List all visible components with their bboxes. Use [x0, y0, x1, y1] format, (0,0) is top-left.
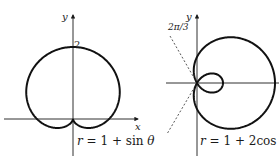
angle-line-2pi-3	[170, 36, 197, 83]
left-tick-2: 2	[74, 39, 80, 50]
left-y-label: y	[61, 11, 68, 22]
eq-theta: θ	[147, 134, 155, 148]
left-plot: y x 2 r = 1 + sin θ	[4, 11, 155, 156]
left-equation: r = 1 + sin θ	[77, 134, 155, 148]
left-x-label: x	[135, 121, 141, 132]
eq-rest: = 1 + sin	[83, 134, 148, 148]
angle-label: 2π/3	[167, 22, 189, 32]
figure: y x 2 r = 1 + sin θ y 2π/3 r = 1 + 2cos …	[0, 0, 279, 160]
right-y-label: y	[185, 11, 192, 22]
eq-rest: = 1 + 2cos	[206, 134, 279, 148]
right-equation: r = 1 + 2cos θ	[200, 134, 279, 148]
angle-line-extension	[167, 83, 197, 134]
right-plot: y 2π/3 r = 1 + 2cos θ	[166, 11, 279, 156]
